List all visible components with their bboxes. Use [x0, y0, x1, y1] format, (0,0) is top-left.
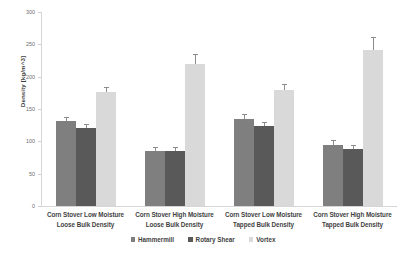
- error-bar: [175, 148, 176, 151]
- error-bar-cap: [64, 117, 69, 118]
- y-tick-label: 200: [1, 74, 35, 80]
- error-bar-cap: [193, 54, 198, 55]
- bulk-density-bar-chart: Density [kg/m^3] 050100150200250300 Corn…: [0, 0, 406, 254]
- error-bar-cap: [371, 37, 376, 38]
- bar-group: [41, 12, 130, 206]
- legend-item[interactable]: Rotary Shear: [188, 236, 235, 243]
- x-axis-category-label-line: Corn Stover Low Moisture: [219, 210, 308, 220]
- plot-area: 050100150200250300: [41, 12, 397, 206]
- y-tick-mark: [38, 206, 41, 207]
- error-bar: [333, 141, 334, 145]
- x-axis-category-label: Corn Stover High MoistureTapped Bulk Den…: [308, 210, 397, 229]
- error-bar: [66, 118, 67, 121]
- x-axis-category-label-line: Loose Bulk Density: [130, 220, 219, 230]
- error-bar: [195, 55, 196, 64]
- legend-item[interactable]: Hammermill: [131, 236, 175, 243]
- x-axis-category-label: Corn Stover Low MoistureTapped Bulk Dens…: [219, 210, 308, 229]
- error-bar: [264, 123, 265, 126]
- bar: [234, 119, 254, 206]
- error-bar-cap: [282, 84, 287, 85]
- bar: [363, 50, 383, 206]
- error-bar: [106, 88, 107, 93]
- bar: [165, 151, 185, 206]
- x-axis-category-label: Corn Stover High MoistureLoose Bulk Dens…: [130, 210, 219, 229]
- bar: [254, 126, 274, 206]
- error-bar: [353, 146, 354, 149]
- y-tick-label: 250: [1, 41, 35, 47]
- legend-swatch-icon: [249, 237, 254, 242]
- error-bar-cap: [173, 147, 178, 148]
- legend-label: Hammermill: [138, 236, 174, 243]
- error-bar-cap: [331, 140, 336, 141]
- chart-legend: HammermillRotary ShearVortex: [0, 236, 406, 243]
- legend-item[interactable]: Vortex: [249, 236, 276, 243]
- x-axis-category-label-line: Corn Stover Low Moisture: [41, 210, 130, 220]
- bar-group: [308, 12, 397, 206]
- error-bar-cap: [351, 145, 356, 146]
- bar: [76, 128, 96, 206]
- x-axis-category-labels: Corn Stover Low MoistureLoose Bulk Densi…: [41, 210, 397, 238]
- bar: [343, 149, 363, 206]
- error-bar: [86, 125, 87, 128]
- bar: [56, 121, 76, 206]
- y-tick-label: 100: [1, 138, 35, 144]
- y-tick-label: 150: [1, 106, 35, 112]
- legend-label: Vortex: [256, 236, 275, 243]
- bar-group: [130, 12, 219, 206]
- error-bar-cap: [104, 87, 109, 88]
- x-axis-category-label-line: Tapped Bulk Density: [219, 220, 308, 230]
- bar: [145, 151, 165, 206]
- error-bar-cap: [262, 122, 267, 123]
- legend-label: Rotary Shear: [196, 236, 235, 243]
- bar: [185, 64, 205, 206]
- x-axis-category-label-line: Tapped Bulk Density: [308, 220, 397, 230]
- x-axis-line: [41, 206, 397, 207]
- legend-swatch-icon: [188, 237, 193, 242]
- error-bar: [244, 115, 245, 119]
- error-bar-cap: [153, 147, 158, 148]
- y-tick-label: 0: [1, 203, 35, 209]
- bar: [323, 145, 343, 206]
- x-axis-category-label-line: Corn Stover High Moisture: [308, 210, 397, 220]
- bar-group: [219, 12, 308, 206]
- error-bar-cap: [84, 124, 89, 125]
- error-bar: [284, 85, 285, 90]
- error-bar: [373, 38, 374, 50]
- y-tick-label: 300: [1, 9, 35, 15]
- bar: [96, 92, 116, 206]
- x-axis-category-label-line: Loose Bulk Density: [41, 220, 130, 230]
- error-bar-cap: [242, 114, 247, 115]
- bar: [274, 90, 294, 206]
- error-bar: [155, 148, 156, 151]
- x-axis-category-label-line: Corn Stover High Moisture: [130, 210, 219, 220]
- y-tick-label: 50: [1, 171, 35, 177]
- x-axis-category-label: Corn Stover Low MoistureLoose Bulk Densi…: [41, 210, 130, 229]
- legend-swatch-icon: [131, 237, 136, 242]
